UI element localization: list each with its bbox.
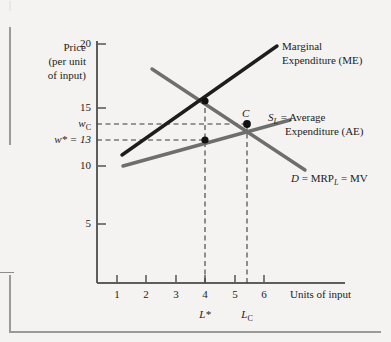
point-c-label: C bbox=[242, 107, 249, 120]
marginal-expenditure-curve bbox=[122, 46, 277, 155]
x-axis-ticks bbox=[117, 275, 264, 283]
L-C-label: LC bbox=[235, 308, 259, 324]
L-C-subscript: C bbox=[247, 314, 252, 323]
y-tick-label-5: 5 bbox=[60, 217, 91, 230]
y-tick-label-20: 20 bbox=[60, 37, 91, 50]
competitive-equilibrium-dot bbox=[243, 120, 251, 128]
y-tick-label-10: 10 bbox=[60, 159, 91, 172]
x-tick-label-2: 2 bbox=[136, 288, 156, 301]
x-tick-label-1: 1 bbox=[107, 288, 127, 301]
dashed-guide-lines bbox=[97, 101, 247, 283]
y-axis-title-line-2: (per unit bbox=[20, 55, 86, 68]
me-demand-intersection-dot bbox=[201, 97, 208, 104]
marginal-expenditure-label-line-1: Marginal bbox=[282, 40, 322, 53]
x-tick-label-3: 3 bbox=[166, 288, 186, 301]
L-star-label: L* bbox=[193, 308, 217, 321]
x-axis-title: Units of input bbox=[290, 288, 351, 301]
x-tick-label-4: 4 bbox=[195, 288, 215, 301]
supply-at-L-star-dot bbox=[201, 136, 208, 143]
demand-curve-symbol: D bbox=[291, 172, 299, 184]
y-tick-label-15: 15 bbox=[60, 101, 91, 114]
demand-curve-label-rest: = MV bbox=[338, 172, 367, 184]
wage-wC-symbol: w bbox=[78, 117, 85, 129]
wage-wC-subscript: C bbox=[86, 123, 91, 132]
x-tick-label-5: 5 bbox=[225, 288, 245, 301]
x-tick-label-6: 6 bbox=[254, 288, 274, 301]
demand-curve-label-mid: = MRP bbox=[299, 172, 334, 184]
demand-curve-label: D = MRPL = MV bbox=[291, 172, 368, 188]
y-axis-title-line-3: of input) bbox=[20, 69, 86, 82]
marginal-expenditure-label-line-2: Expenditure (ME) bbox=[282, 54, 362, 67]
wage-wC-label: wC bbox=[48, 117, 91, 133]
supply-curve-label-rest: = Average bbox=[278, 111, 326, 123]
y-axis-ticks bbox=[97, 44, 106, 224]
supply-curve-label-line-2: Expenditure (AE) bbox=[285, 125, 364, 138]
wage-wstar-label: w* = 13 bbox=[30, 133, 91, 146]
